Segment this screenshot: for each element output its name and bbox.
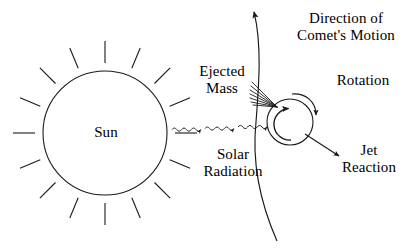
solar-radiation-ray-1 xyxy=(172,128,201,131)
solar-radiation-ray-2 xyxy=(205,127,234,130)
label-direction-of-comet-motion: Direction of Comet's Motion xyxy=(285,10,407,44)
solar-radiation-rays xyxy=(172,125,267,131)
label-ejected-mass: Ejected Mass xyxy=(186,63,258,97)
solar-radiation-ray-3 xyxy=(238,125,267,128)
label-solar-radiation: Solar Radiation xyxy=(193,146,273,180)
label-sun: Sun xyxy=(78,124,134,141)
label-jet-reaction: Jet Reaction xyxy=(330,142,408,176)
label-rotation: Rotation xyxy=(327,72,399,89)
comet-spin-arrow xyxy=(274,109,291,141)
comet-diagram-figure: Sun Ejected Mass Solar Radiation Directi… xyxy=(0,0,410,249)
rotation-arc-arrow xyxy=(292,94,316,115)
